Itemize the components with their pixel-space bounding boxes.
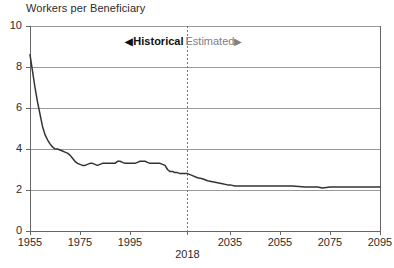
ytick-label: 6	[0, 101, 22, 113]
ytick-label: 4	[0, 142, 22, 154]
axes-group	[26, 26, 380, 231]
data-series-group	[30, 55, 380, 188]
xtick-label: 1955	[10, 236, 50, 248]
historical-label: Historical	[133, 35, 183, 47]
data-line	[30, 55, 380, 188]
xtick-label: 1975	[60, 236, 100, 248]
xtick-label: 2035	[210, 236, 250, 248]
ytick-label: 0	[0, 224, 22, 236]
ytick-label: 8	[0, 60, 22, 72]
xtick-label: 2018	[168, 248, 208, 260]
right-arrow-icon: ▶	[234, 36, 242, 47]
chart-container: Workers per Beneficiary 0246810 19551975…	[0, 0, 394, 268]
xtick-marks-group	[30, 231, 380, 235]
xtick-label: 2075	[310, 236, 350, 248]
historical-annotation: ◀Historical	[125, 33, 183, 50]
ytick-label: 2	[0, 183, 22, 195]
estimated-label: Estimated	[186, 35, 235, 47]
xtick-label: 1995	[110, 236, 150, 248]
xtick-label: 2055	[260, 236, 300, 248]
estimated-annotation: Estimated▶	[186, 33, 243, 50]
era-annotation: ◀Historical Estimated▶	[108, 33, 268, 49]
xtick-label: 2095	[360, 236, 394, 248]
ytick-label: 10	[0, 19, 22, 31]
